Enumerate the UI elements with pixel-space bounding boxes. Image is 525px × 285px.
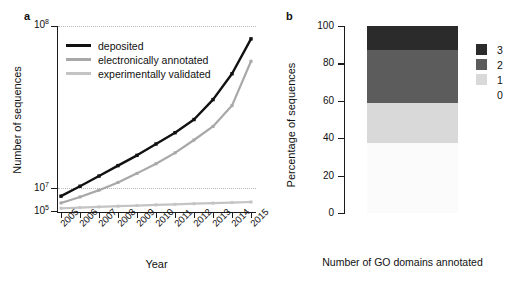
panel-a-legend-label-experimentally-validated: experimentally validated — [98, 68, 211, 80]
panel-b-bar-segment-3 — [367, 26, 458, 50]
panel-b-legend-swatch-3 — [476, 44, 487, 55]
panel-a-legend-item-electronically-annotated: electronically annotated — [66, 53, 211, 66]
panel-a-ytick-label-1e5: 105 — [16, 204, 49, 216]
panel-a-ytick-exponent-1e7: 7 — [45, 181, 49, 188]
panel-b: b Percentage of sequences 020406080100 3… — [280, 0, 525, 285]
panel-a-ytick-exponent-1e8: 8 — [45, 18, 49, 25]
panel-b-ytick-label-100: 100 — [298, 20, 334, 31]
panel-b-x-axis-label: Number of GO domains annotated — [280, 256, 525, 268]
panel-b-legend-item-1: 1 — [476, 72, 503, 87]
panel-b-legend-swatch-2 — [476, 59, 487, 70]
panel-a-legend-line-electronically-annotated — [66, 58, 91, 61]
panel-b-legend-item-2: 2 — [476, 57, 503, 72]
panel-b-legend-item-3: 3 — [476, 42, 503, 57]
panel-b-legend: 3 2 1 0 — [476, 42, 503, 102]
panel-a-ytick-label-1e7: 107 — [16, 181, 49, 193]
panel-a-legend-item-deposited: deposited — [66, 39, 211, 52]
panel-a-legend-line-experimentally-validated — [66, 72, 91, 75]
panel-b-ytick-60 — [338, 101, 345, 102]
panel-a-ytick-mantissa-1e8: 10 — [34, 19, 45, 30]
panel-b-stacked-bar — [367, 26, 458, 213]
panel-b-letter: b — [286, 10, 293, 22]
panel-b-ytick-label-60: 60 — [298, 95, 334, 106]
panel-b-bar-segment-1 — [367, 103, 458, 143]
panel-a-y-axis-label: Number of sequences — [8, 60, 26, 180]
panel-b-legend-label-0: 0 — [497, 89, 503, 101]
panel-b-ytick-label-0: 0 — [298, 207, 334, 218]
panel-a-ytick-label-1e8: 108 — [16, 18, 49, 30]
panel-b-ytick-label-20: 20 — [298, 170, 334, 181]
panel-b-ytick-100 — [338, 26, 345, 27]
panel-b-legend-label-1: 1 — [497, 74, 503, 86]
panel-b-legend-swatch-1 — [476, 74, 487, 85]
panel-a-ytick-mantissa-1e5: 10 — [34, 205, 45, 216]
panel-b-ytick-80 — [338, 63, 345, 64]
panel-b-legend-swatch-0 — [476, 89, 487, 100]
panel-b-ytick-label-80: 80 — [298, 57, 334, 68]
panel-b-legend-item-0: 0 — [476, 87, 503, 102]
panel-a-ytick-mantissa-1e7: 10 — [34, 182, 45, 193]
panel-b-legend-label-2: 2 — [497, 59, 503, 71]
panel-b-ytick-40 — [338, 138, 345, 139]
panel-a-legend-label-deposited: deposited — [98, 40, 144, 52]
panel-b-ytick-0 — [338, 213, 345, 214]
panel-a-legend-item-experimentally-validated: experimentally validated — [66, 67, 211, 80]
panel-b-legend-label-3: 3 — [497, 44, 503, 56]
panel-b-ytick-20 — [338, 176, 345, 177]
panel-b-bar-segment-2 — [367, 50, 458, 102]
panel-a-legend-line-deposited — [66, 44, 91, 47]
panel-b-y-axis-line — [344, 26, 345, 213]
panel-a: a Number of sequences 108 107 105 200520… — [0, 0, 280, 285]
panel-a-legend-label-electronically-annotated: electronically annotated — [98, 54, 208, 66]
panel-a-legend: deposited electronically annotated exper… — [66, 39, 211, 81]
panel-b-ytick-label-40: 40 — [298, 132, 334, 143]
panel-b-y-axis-label-text: Percentage of sequences — [285, 63, 297, 188]
panel-b-bar-segment-0 — [367, 143, 458, 213]
panel-a-y-axis-label-text: Number of sequences — [11, 66, 23, 174]
panel-a-ytick-exponent-1e5: 5 — [45, 204, 49, 211]
panel-a-x-axis-label: Year — [57, 258, 256, 270]
